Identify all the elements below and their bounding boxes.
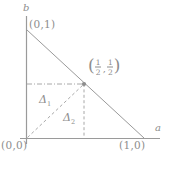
midpoint-marker (82, 82, 86, 86)
midpoint-y-numerator: 1 (108, 59, 113, 67)
region-label-delta-2: Δ2 (63, 112, 75, 126)
y-axis-label: b (23, 3, 29, 13)
region-label-delta-1: Δ1 (39, 94, 51, 108)
point-label-origin: (0,0) (1, 140, 27, 151)
midpoint-x-numerator: 1 (96, 59, 101, 67)
midpoint-x-fraction: 1 2 (95, 59, 101, 76)
x-axis-label: a (155, 123, 161, 133)
median-dashed-line (28, 84, 85, 138)
midpoint-y-fraction: 1 2 (107, 59, 113, 76)
midpoint-close-paren: ) (114, 57, 121, 74)
midpoint-comma: , (102, 64, 107, 75)
delta-2-symbol: Δ (63, 111, 71, 124)
delta-1-symbol: Δ (39, 93, 47, 106)
delta-1-subscript: 1 (47, 100, 51, 108)
point-label-right: (1,0) (119, 140, 145, 151)
delta-2-subscript: 2 (71, 118, 75, 126)
midpoint-open-paren: ( (88, 57, 95, 74)
point-label-top: (0,1) (29, 19, 55, 30)
midpoint-y-denominator: 2 (108, 68, 113, 76)
point-label-midpoint: ( 1 2 , 1 2 ) (88, 58, 120, 75)
simplex-diagram: b a (0,1) (0,0) (1,0) ( 1 2 , 1 2 ) Δ1 Δ… (0, 0, 170, 169)
midpoint-x-denominator: 2 (96, 68, 101, 76)
